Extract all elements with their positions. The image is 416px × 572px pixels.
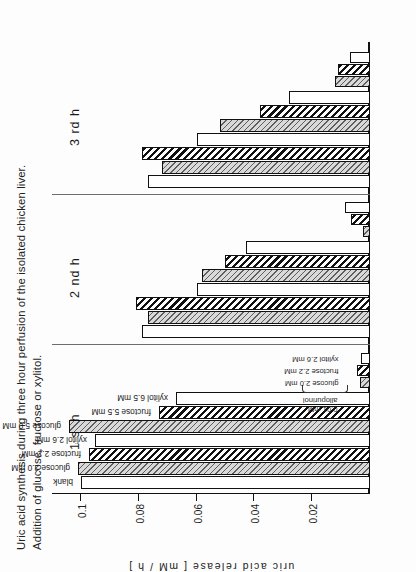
bar-2nd-glucose-2.0	[148, 311, 370, 324]
bar-2nd-glucose-2.0-allopurinol	[363, 226, 370, 237]
bar-3rd-blank	[148, 175, 370, 188]
bar-2nd-glucose-5.0	[202, 269, 370, 282]
bar-1st-glucose-2.0	[78, 462, 370, 475]
bar-1st-fructose-2.2	[89, 448, 370, 461]
allopurinol-item-glucose: glucose 2.0 mM	[285, 379, 339, 388]
group-separator-1	[52, 344, 370, 345]
value-axis-title: uric acid release [ mM / h ]	[128, 561, 295, 572]
bar-1st-fructose-5.5	[159, 406, 370, 419]
bar-3rd-xylitol-6.5	[289, 91, 370, 104]
axis-tick-label-0.04: 0.04	[250, 504, 261, 538]
axis-tick-0.1	[80, 494, 81, 501]
bar-2nd-blank	[142, 325, 370, 338]
bar-1st-glucose-2.0-allopurinol	[360, 377, 370, 388]
bar-label-blank: blank	[53, 477, 73, 487]
allopurinol-label-line-1: allopurinol	[303, 396, 338, 405]
allopurinol-label-line-2: 0.01 mM	[308, 405, 338, 414]
bar-2nd-fructose-2.2-allopurinol	[351, 214, 370, 225]
allopurinol-item-fructose: fructose 2.2 mM	[284, 367, 338, 376]
group-separator-2	[52, 194, 370, 195]
group-label-3rd-h: 3 rd h	[68, 108, 82, 146]
bar-3rd-fructose-2.2	[142, 147, 370, 160]
value-axis-line	[52, 493, 370, 494]
rotated-figure-canvas: Uric acid synthesis during three hour pe…	[0, 0, 416, 572]
bar-label-fructose-2.2: fructose 2.2 mM	[22, 449, 81, 459]
bar-1st-xylitol-2.6	[95, 434, 370, 447]
bar-3rd-fructose-2.2-allopurinol	[338, 64, 370, 75]
bar-2nd-xylitol-2.6	[197, 283, 370, 296]
bar-1st-xylitol-6.5	[176, 392, 370, 405]
bar-label-glucose-5.0: glucose 5.0 mM	[2, 421, 61, 431]
bar-2nd-xylitol-2.6-allopurinol	[345, 202, 370, 213]
axis-tick-label-0.06: 0.06	[193, 504, 204, 538]
bar-label-xylitol-6.5: xylitol 6.5 mM	[117, 393, 168, 403]
bar-3rd-xylitol-2.6	[197, 133, 370, 146]
allopurinol-item-xylitol: xylitol 2.6 mM	[292, 355, 338, 364]
bar-label-glucose-2.0: glucose 2.0 mM	[11, 463, 70, 473]
axis-tick-0.08	[138, 494, 139, 501]
group-label-2nd-h: 2 nd h	[68, 257, 82, 298]
figure-title-line-1: Uric acid synthesis during three hour pe…	[15, 165, 27, 550]
bar-label-fructose-5.5: fructose 5.5 mM	[92, 407, 151, 417]
bar-3rd-glucose-2.0-allopurinol	[335, 76, 370, 87]
axis-tick-label-0.02: 0.02	[308, 504, 319, 538]
figure-page: Uric acid synthesis during three hour pe…	[0, 0, 416, 572]
bar-1st-blank	[81, 476, 370, 489]
plot-area: 0.1 0.08 0.06 0.04 0.02 uric acid releas…	[52, 42, 370, 494]
bar-3rd-fructose-5.5	[260, 105, 370, 118]
bar-label-xylitol-2.6: xylitol 2.6 mM	[36, 435, 87, 445]
bar-2nd-fructose-5.5	[225, 255, 370, 268]
axis-tick-0.06	[196, 494, 197, 501]
axis-tick-0.02	[311, 494, 312, 501]
bar-2nd-xylitol-6.5	[246, 241, 370, 254]
bar-1st-glucose-5.0	[69, 420, 370, 433]
bar-3rd-xylitol-2.6-allopurinol	[350, 52, 370, 63]
bar-1st-xylitol-2.6-allopurinol	[361, 353, 370, 364]
bar-3rd-glucose-2.0	[162, 161, 370, 174]
axis-tick-0.04	[253, 494, 254, 501]
bar-3rd-glucose-5.0	[220, 119, 370, 132]
axis-tick-label-0.1: 0.1	[77, 504, 88, 538]
axis-tick-label-0.08: 0.08	[135, 504, 146, 538]
bar-2nd-fructose-2.2	[136, 297, 370, 310]
bar-1st-fructose-2.2-allopurinol	[357, 365, 370, 376]
